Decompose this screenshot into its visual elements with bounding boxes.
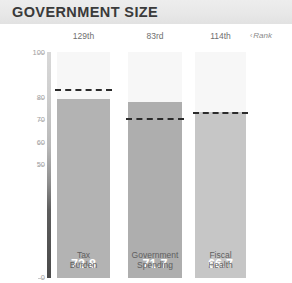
rank-label-tax-burden: 129th: [57, 31, 110, 41]
rank-annotation-label: Rank: [253, 31, 272, 40]
government-size-chart-card: GOVERNMENT SIZE 100 80 70 60 50: [0, 0, 292, 283]
chevron-left-icon: ‹: [250, 32, 252, 39]
y-tick-mark-70: [38, 120, 45, 121]
category-label-fiscal-health-line2: Health: [190, 260, 251, 270]
y-tick-mark-0: [38, 278, 45, 279]
y-axis-spine: [47, 52, 51, 278]
rank-label-government-spending: 83rd: [128, 31, 182, 41]
rank-label-fiscal-health: 114th: [195, 31, 246, 41]
category-label-government-spending-line1: Government: [120, 250, 190, 260]
y-tick-mark-80: [38, 98, 45, 99]
rank-annotation: ‹Rank: [250, 31, 272, 40]
category-label-fiscal-health-line1: Fiscal: [190, 250, 251, 260]
y-tick-mark-100: [38, 53, 45, 54]
average-line-tax-burden: [55, 89, 112, 91]
average-line-fiscal-health: [193, 112, 248, 114]
category-label-fiscal-health: Fiscal Health: [190, 250, 251, 270]
category-label-government-spending: Government Spending: [120, 250, 190, 270]
plot-area: 100 80 70 60 50 0 129th 83rd 114th ‹Ra: [0, 0, 292, 283]
category-label-tax-burden: Tax Burden: [52, 250, 115, 270]
y-tick-mark-60: [38, 143, 45, 144]
category-label-tax-burden-line1: Tax: [52, 250, 115, 260]
average-line-government-spending: [126, 118, 184, 120]
y-tick-mark-50: [38, 165, 45, 166]
category-label-tax-burden-line2: Burden: [52, 260, 115, 270]
category-label-government-spending-line2: Spending: [120, 260, 190, 270]
